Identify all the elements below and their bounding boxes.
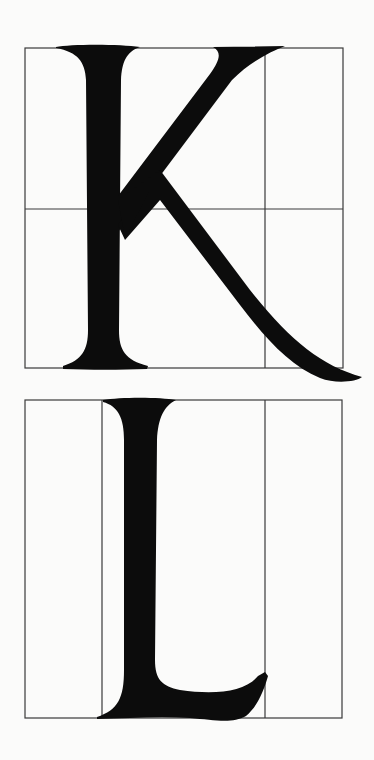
letter-k-leg <box>118 170 362 382</box>
letter-l-grid <box>25 400 342 718</box>
letter-l-body <box>97 398 268 721</box>
letterform-construction-sheet: K L <box>0 0 374 760</box>
letter-l-grid-box <box>25 400 342 718</box>
letterform-diagram <box>0 0 374 760</box>
letter-l-glyph <box>97 398 268 721</box>
letter-k-glyph <box>56 45 362 382</box>
